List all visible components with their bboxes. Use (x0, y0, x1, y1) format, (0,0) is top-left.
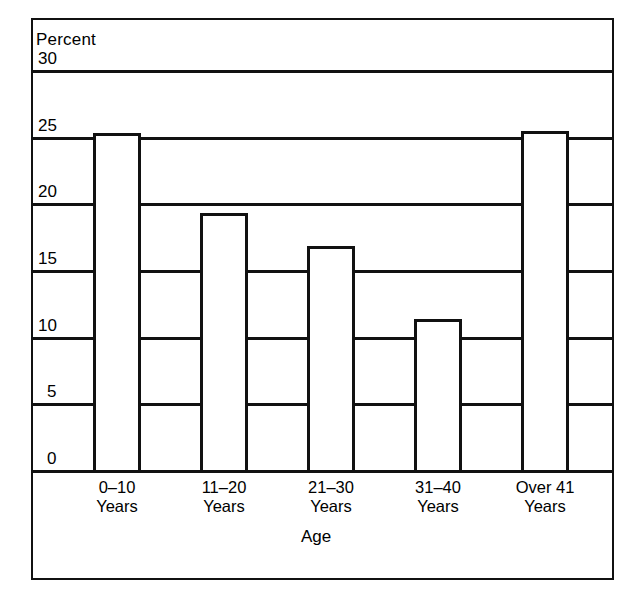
x-tick-label-5: Over 41Years (485, 478, 605, 516)
x-tick-label-line2: Years (485, 497, 605, 516)
x-axis-title: Age (0, 527, 632, 547)
x-tick-label-3: 21–30Years (271, 478, 391, 516)
x-tick-label-line2: Years (57, 497, 177, 516)
x-tick-label-1: 0–10Years (57, 478, 177, 516)
bar-2 (200, 213, 248, 470)
x-tick-label-line1: Over 41 (516, 478, 575, 496)
y-axis-title: Percent (36, 30, 96, 50)
bar-3 (307, 246, 355, 470)
bars-layer (33, 70, 613, 470)
x-tick-label-line2: Years (271, 497, 391, 516)
y-tick-label-30: 30 (38, 50, 57, 67)
x-tick-label-line2: Years (164, 497, 284, 516)
x-axis-line (33, 470, 612, 473)
x-tick-label-line1: 21–30 (308, 478, 354, 496)
bar-4 (414, 319, 462, 470)
x-tick-label-line1: 31–40 (415, 478, 461, 496)
x-tick-label-line1: 0–10 (99, 478, 136, 496)
bar-1 (93, 133, 141, 470)
x-tick-label-line1: 11–20 (202, 478, 247, 496)
x-tick-label-line2: Years (378, 497, 498, 516)
x-tick-label-4: 31–40Years (378, 478, 498, 516)
bar-5 (521, 131, 569, 470)
x-tick-label-2: 11–20Years (164, 478, 284, 516)
